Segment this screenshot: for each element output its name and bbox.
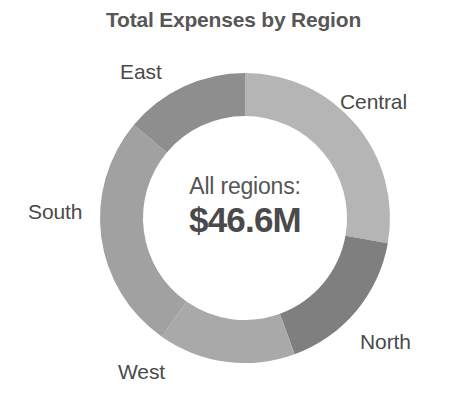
slice-label-west: West (118, 360, 165, 384)
slice-label-east: East (120, 60, 162, 84)
slice-label-south: South (28, 200, 82, 224)
slice-label-central: Central (340, 90, 407, 114)
donut-center-value: $46.6M (145, 200, 345, 240)
donut-chart-container: Total Expenses by Region East Central So… (0, 0, 467, 410)
donut-center-total: All regions: $46.6M (145, 172, 345, 240)
donut-center-caption: All regions: (145, 172, 345, 200)
slice-label-north: North (360, 330, 411, 354)
donut-slice-west[interactable] (162, 302, 295, 363)
